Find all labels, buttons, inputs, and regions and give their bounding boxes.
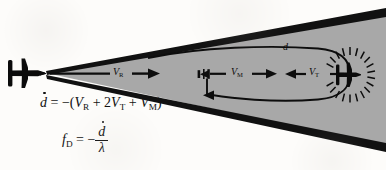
missile-icon — [198, 69, 210, 79]
eq1-term2: V — [111, 95, 120, 110]
eq2-numerator: d — [98, 125, 105, 140]
range-label: d — [283, 41, 288, 52]
eq2-lhs-sub: D — [66, 139, 73, 149]
eq1-term1: V — [74, 95, 83, 110]
equation-range-rate: d = −(VR + 2VT + VM) — [40, 96, 162, 112]
eq1-plus2: + — [129, 95, 137, 110]
target-velocity-label: VT — [309, 66, 319, 78]
eq2-fraction: dλ — [95, 125, 108, 155]
eq1-term1-sub: R — [83, 102, 89, 112]
equation-doppler-frequency: fD = −dλ — [62, 126, 108, 156]
eq1-lhs: d — [40, 96, 47, 110]
missile-velocity-label: VM — [231, 66, 243, 78]
eq2-denominator: λ — [99, 140, 105, 155]
closing-velocity-label: VR — [113, 66, 124, 78]
eq1-relation: = −( — [51, 95, 75, 110]
eq1-term3-sub: M — [149, 102, 157, 112]
eq1-term2-sub: T — [120, 102, 126, 112]
aircraft-icon — [8, 59, 46, 88]
eq2-relation: = − — [76, 132, 95, 147]
radar-doppler-figure: VR VM VT d d = −(VR + 2VT + VM) fD = −dλ — [0, 0, 386, 170]
figure-canvas — [0, 0, 386, 170]
eq1-close: ) — [157, 95, 162, 110]
eq1-term3: V — [140, 95, 149, 110]
eq1-plus1: + 2 — [93, 95, 111, 110]
